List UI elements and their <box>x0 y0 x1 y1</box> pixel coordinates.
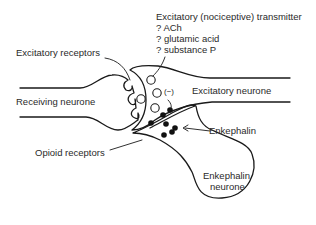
opioid-receptors-label: Opioid receptors <box>35 147 105 158</box>
excitatory-neurone-label: Excitatory neurone <box>192 85 271 96</box>
transmitter-candidate-ach: ? ACh <box>156 22 182 33</box>
enkephalin-label: Enkephalin <box>209 125 256 136</box>
transmitter-vesicle <box>151 104 159 112</box>
excitatory-receptors-label: Excitatory receptors <box>16 47 100 58</box>
transmitter-vesicle <box>147 76 155 84</box>
transmitter-candidate-glutamic-acid: ? glutamic acid <box>156 33 219 44</box>
receiving-neurone-label: Receiving neurone <box>16 96 95 107</box>
enkephalin-leader <box>185 128 210 131</box>
enkephalin-vesicle <box>163 121 169 127</box>
enkephalin-vesicle <box>160 112 166 118</box>
opioid-receptors-leader <box>110 140 142 150</box>
enkephalin-neurone-label-line1: Enkephalin <box>203 170 250 181</box>
transmitter-title-label: Excitatory (nociceptive) transmitter <box>156 11 302 22</box>
enkephalin-vesicle <box>169 129 175 135</box>
inhibition-sign: (−) <box>164 86 174 97</box>
transmitter-vesicle <box>153 89 161 97</box>
enkephalin-vesicle <box>148 120 154 126</box>
enkephalin-vesicle <box>161 132 167 138</box>
excitatory-receptors-leader <box>105 58 130 80</box>
enkephalin-neurone-label-line2: neurone <box>210 181 245 192</box>
transmitter-vesicle <box>137 95 145 103</box>
transmitter-candidate-substance-p: ? substance P <box>156 44 216 55</box>
